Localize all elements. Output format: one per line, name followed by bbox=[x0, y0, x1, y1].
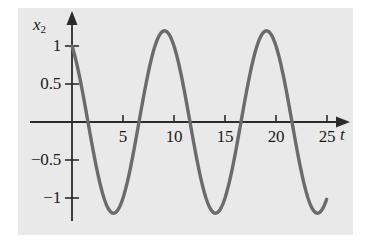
y-tick-label--1: −1 bbox=[0, 189, 61, 206]
y-axis-label-text: x bbox=[33, 15, 41, 34]
x-tick-label-20: 20 bbox=[262, 128, 290, 145]
y-tick-label--0.5: −0.5 bbox=[0, 151, 61, 168]
x-tick-label-15: 15 bbox=[211, 128, 239, 145]
x-tick-label-25: 25 bbox=[313, 128, 341, 145]
y-axis-label-subscript: 2 bbox=[41, 23, 47, 35]
y-axis-arrowhead bbox=[67, 11, 78, 25]
x-tick-label-10: 10 bbox=[160, 128, 188, 145]
figure-container: x2 t 51015202510.5−0.5−1 bbox=[0, 0, 370, 243]
y-axis-label: x2 bbox=[33, 16, 46, 35]
y-tick-label-1: 1 bbox=[0, 37, 61, 54]
x-axis-ticks bbox=[123, 115, 327, 122]
x-tick-label-5: 5 bbox=[109, 128, 137, 145]
y-axis bbox=[67, 11, 78, 221]
y-tick-label-0.5: 0.5 bbox=[0, 75, 61, 92]
